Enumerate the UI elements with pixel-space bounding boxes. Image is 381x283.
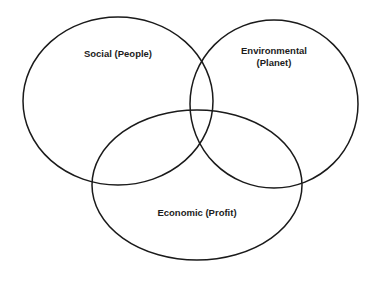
venn-diagram: .... Social (People) Environmental (Plan… <box>0 0 381 283</box>
label-economic: Economic (Profit) <box>122 207 272 219</box>
label-environmental: Environmental (Planet) <box>205 45 343 69</box>
label-social: Social (People) <box>45 48 191 60</box>
venn-circles-canvas <box>0 0 381 283</box>
circle-social <box>23 17 213 185</box>
